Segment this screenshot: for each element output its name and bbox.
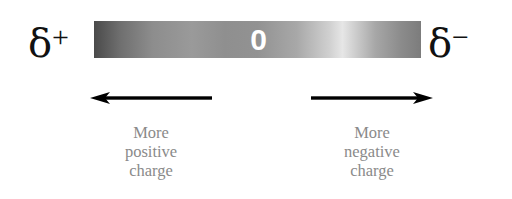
delta-glyph: δ (28, 20, 52, 66)
minus-sign: − (452, 20, 469, 53)
caption-line: charge (101, 161, 201, 180)
neutral-zero-label: 0 (94, 21, 421, 58)
right-arrow-icon (311, 92, 433, 104)
delta-glyph: δ (428, 20, 452, 66)
left-arrow-icon (90, 92, 212, 104)
caption-line: positive (101, 142, 201, 161)
caption-line: More (322, 123, 422, 142)
partial-negative-symbol: δ− (428, 14, 469, 66)
caption-line: More (101, 123, 201, 142)
more-positive-caption: More positive charge (101, 123, 201, 180)
partial-positive-symbol: δ+ (28, 14, 69, 66)
more-negative-caption: More negative charge (322, 123, 422, 180)
caption-line: negative (322, 142, 422, 161)
plus-sign: + (52, 20, 69, 53)
charge-scale-bar: 0 (94, 21, 421, 58)
caption-line: charge (322, 161, 422, 180)
